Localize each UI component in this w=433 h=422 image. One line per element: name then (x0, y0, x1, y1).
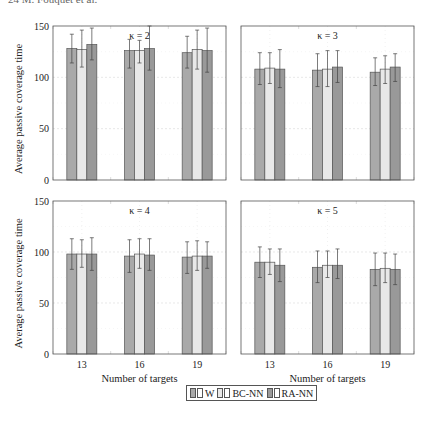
y-tick-label: 0 (44, 175, 49, 186)
bar (255, 69, 265, 180)
y-tick-label: 100 (34, 72, 49, 83)
x-tick-label: 19 (380, 359, 390, 370)
bar (333, 67, 343, 180)
panel-title: κ = 5 (317, 205, 338, 216)
bar (265, 262, 275, 354)
bar (202, 256, 212, 354)
legend-swatch-w (190, 388, 196, 398)
bar (77, 254, 87, 354)
panel-title: κ = 4 (129, 205, 150, 216)
y-tick-label: 150 (34, 196, 49, 207)
legend-label-ra-nn: RA-NN (282, 388, 314, 399)
chart-panel-2: κ = 3 (241, 26, 414, 180)
y-axis-label: Average passive coverage time (13, 218, 24, 348)
y-tick-label: 50 (39, 123, 49, 134)
legend-swatch-w-2 (197, 388, 203, 398)
x-tick-label: 13 (77, 359, 87, 370)
panel-title: κ = 3 (317, 30, 338, 41)
bar (265, 68, 275, 180)
bar (87, 44, 97, 180)
legend-item-w: W (190, 388, 214, 399)
y-tick-label: 100 (34, 247, 49, 258)
x-tick-label: 19 (192, 359, 202, 370)
bar (67, 49, 77, 180)
panel-title: κ = 2 (129, 30, 150, 41)
y-tick-label: 50 (39, 298, 49, 309)
chart-legend: W BC-NN RA-NN (186, 385, 317, 401)
legend-label-w: W (205, 388, 214, 399)
bar (135, 254, 145, 354)
x-axis-label: Number of targets (101, 373, 177, 384)
bar (390, 67, 400, 180)
legend-swatch-bc-nn-2 (224, 388, 230, 398)
x-tick-label: 16 (323, 359, 333, 370)
chart-panel-4: κ = 5131619Number of targets (241, 201, 414, 384)
chart-panel-1: κ = 2050100150Average passive coverage t… (13, 21, 226, 186)
bar (323, 265, 333, 354)
bar (182, 53, 192, 180)
y-tick-label: 150 (34, 21, 49, 32)
chart-panel-3: κ = 4050100150Average passive coverage t… (13, 196, 226, 385)
y-axis-label: Average passive coverage time (13, 44, 24, 174)
legend-swatch-bc-nn (217, 388, 223, 398)
x-tick-label: 13 (265, 359, 275, 370)
legend-swatch-ra-nn (267, 388, 273, 398)
bar (77, 50, 87, 180)
legend-item-ra-nn: RA-NN (267, 388, 314, 399)
x-tick-label: 16 (135, 359, 145, 370)
legend-item-bc-nn: BC-NN (217, 388, 263, 399)
bar (192, 256, 202, 354)
y-tick-label: 0 (44, 349, 49, 360)
bar (135, 51, 145, 180)
bar (125, 51, 135, 180)
legend-swatch-ra-nn-2 (274, 388, 280, 398)
bar (380, 69, 390, 180)
x-axis-label: Number of targets (289, 373, 365, 384)
legend-label-bc-nn: BC-NN (232, 388, 263, 399)
bar (370, 72, 380, 180)
chart-figure: κ = 2050100150Average passive coverage t… (0, 0, 433, 422)
